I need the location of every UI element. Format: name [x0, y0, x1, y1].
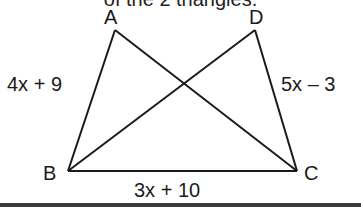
vertex-label-a: A: [104, 6, 118, 28]
side-label-bc: 3x + 10: [134, 179, 200, 201]
vertex-label-b: B: [43, 162, 56, 184]
bottom-divider: [0, 203, 361, 207]
triangles-diagram: A D B C 4x + 9 5x – 3 3x + 10: [0, 0, 361, 207]
side-label-ab: 4x + 9: [7, 73, 62, 95]
segment-ac: [115, 30, 297, 171]
vertex-label-d: D: [249, 6, 263, 28]
segment-db: [68, 30, 255, 171]
vertex-label-c: C: [304, 162, 318, 184]
segment-dc: [255, 30, 297, 171]
segment-ab: [68, 30, 115, 171]
side-label-dc: 5x – 3: [281, 73, 335, 95]
